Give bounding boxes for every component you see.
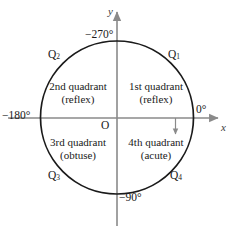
quadrant-tag-q3-index: 3	[56, 173, 60, 182]
quadrant-second: 2nd quadrant (reflex)	[41, 80, 115, 107]
quadrant-third-subtitle: (obtuse)	[41, 149, 115, 162]
quadrant-tag-q4-index: 4	[178, 173, 182, 182]
diagram-canvas	[0, 0, 235, 234]
quadrant-second-title: 2nd quadrant	[41, 80, 115, 93]
angle-label-left: −180°	[2, 110, 30, 122]
angle-label-bottom: −90°	[119, 192, 142, 204]
quadrant-fourth-subtitle: (acute)	[119, 149, 193, 162]
quadrant-tag-q2-index: 2	[56, 52, 60, 61]
quadrant-tag-q1: Q1	[168, 49, 180, 61]
y-axis-label: y	[108, 6, 113, 17]
quadrant-fourth-title: 4th quadrant	[119, 136, 193, 149]
quadrant-third-title: 3rd quadrant	[41, 136, 115, 149]
quadrant-first: 1st quadrant (reflex)	[119, 80, 193, 107]
angle-label-top: −270°	[85, 29, 113, 41]
quadrant-first-title: 1st quadrant	[119, 80, 193, 93]
quadrant-tag-q1-index: 1	[176, 52, 180, 61]
quadrant-third: 3rd quadrant (obtuse)	[41, 136, 115, 163]
x-axis-label: x	[221, 122, 226, 133]
quadrant-first-subtitle: (reflex)	[119, 93, 193, 106]
origin-label: O	[101, 120, 109, 132]
quadrant-fourth: 4th quadrant (acute)	[119, 136, 193, 163]
angle-label-right: 0°	[196, 104, 206, 116]
quadrant-tag-q3: Q3	[48, 170, 60, 182]
quadrant-second-subtitle: (reflex)	[41, 93, 115, 106]
unit-circle-quadrant-diagram: y x O −270° −180° 0° −90° Q1 Q2 Q3 Q4 1s…	[0, 0, 235, 234]
quadrant-tag-q2: Q2	[48, 49, 60, 61]
quadrant-tag-q4: Q4	[170, 170, 182, 182]
